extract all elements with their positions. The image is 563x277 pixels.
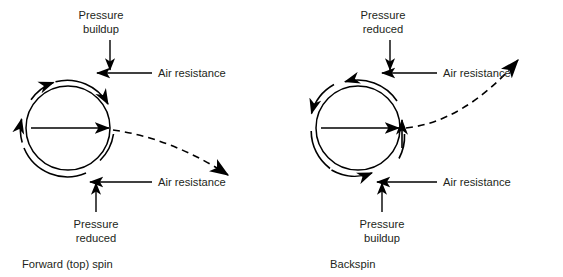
label-pressure-top-line2-left: buildup xyxy=(83,23,119,35)
label-pressure-top-line2-right: reduced xyxy=(363,23,403,35)
label-air-resistance-top-right: Air resistance xyxy=(443,67,511,79)
spin-arc-left-right xyxy=(100,134,114,161)
label-pressure-bottom-line1-left: Pressure xyxy=(74,218,119,230)
label-pressure-bottom-line2-right: buildup xyxy=(364,232,400,244)
spin-diagram-figure: Pressure buildup Air resistance Air resi… xyxy=(0,0,563,277)
caption-backspin: Backspin xyxy=(330,258,375,270)
diagram-canvas: Pressure buildup Air resistance Air resi… xyxy=(0,0,563,277)
spin-arc-left-left xyxy=(20,119,22,143)
panel-backspin: Pressure reduced Air resistance Air resi… xyxy=(311,9,518,270)
spin-arc-right-left xyxy=(311,131,330,169)
trajectory-path-left xyxy=(113,130,228,175)
panel-forward-top-spin: Pressure buildup Air resistance Air resi… xyxy=(20,9,228,270)
label-pressure-top-line1-left: Pressure xyxy=(79,9,124,21)
caption-forward-top-spin: Forward (top) spin xyxy=(22,258,113,270)
spin-arc-left-upper-left xyxy=(31,83,54,100)
label-pressure-top-line1-right: Pressure xyxy=(361,9,406,21)
spin-arc-right-upper-left xyxy=(312,85,335,114)
label-pressure-bottom-line1-right: Pressure xyxy=(360,218,405,230)
label-air-resistance-bottom-left: Air resistance xyxy=(158,176,226,188)
label-pressure-bottom-line2-left: reduced xyxy=(76,232,116,244)
label-air-resistance-top-left: Air resistance xyxy=(158,67,226,79)
spin-arc-right-top xyxy=(345,80,397,101)
spin-arc-right-bottom xyxy=(332,170,373,176)
label-air-resistance-bottom-right: Air resistance xyxy=(443,176,511,188)
